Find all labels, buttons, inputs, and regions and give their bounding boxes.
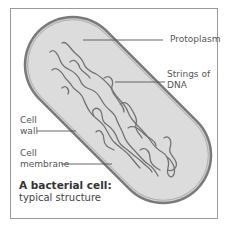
diagram-title: A bacterial cell: bbox=[19, 179, 112, 191]
label-cell-wall-line2: wall bbox=[20, 126, 38, 137]
label-membrane-line2: membrane bbox=[20, 159, 69, 170]
label-protoplasm: Protoplasm bbox=[170, 34, 221, 45]
label-membrane-line1: Cell bbox=[20, 148, 37, 159]
label-dna-line1: Strings of bbox=[167, 69, 210, 80]
label-dna-line2: DNA bbox=[167, 80, 187, 91]
label-cell-wall-line1: Cell bbox=[20, 115, 37, 126]
diagram-subtitle: typical structure bbox=[19, 192, 101, 204]
